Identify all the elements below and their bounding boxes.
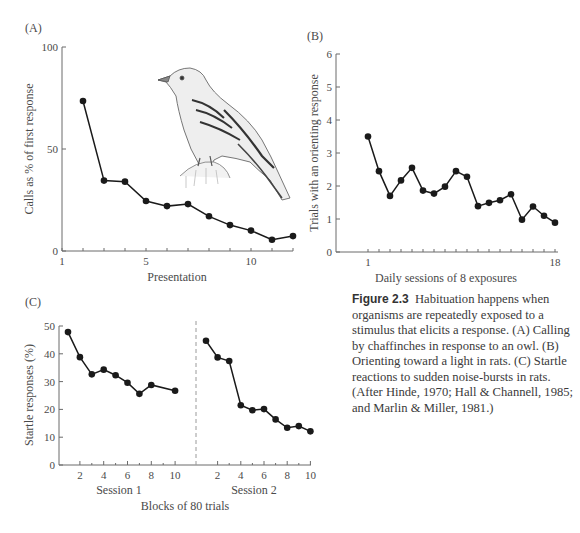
x-tick-label: 6 [261, 469, 267, 481]
chaffinch-illustration-icon [158, 68, 290, 200]
data-point [398, 177, 405, 184]
y-tick-label: 20 [44, 403, 56, 415]
panel-b-line [368, 137, 555, 223]
panel-a-label: (A) [25, 21, 42, 35]
data-point [203, 337, 210, 344]
data-point [226, 358, 233, 365]
data-point [148, 382, 155, 389]
panel-c-y-axis-label: Startle responses (%) [22, 344, 36, 446]
data-point [376, 168, 383, 175]
panel-c-session-1-line [68, 332, 175, 394]
data-point [143, 198, 150, 205]
x-tick-label: 5 [143, 255, 149, 267]
x-tick-label: 1 [59, 255, 65, 267]
data-point [136, 391, 143, 398]
data-point [475, 203, 482, 210]
x-tick-label: 8 [149, 469, 155, 481]
data-point [261, 406, 268, 413]
x-tick-label: 2 [215, 469, 221, 481]
panel-a-y-axis-label: Calls as % of first response [22, 84, 36, 215]
figure-caption: Figure 2.3 Habituation happens when orga… [352, 292, 574, 416]
data-point [80, 98, 87, 105]
data-point [486, 200, 493, 207]
data-point [101, 177, 108, 184]
x-tick-label: 8 [284, 469, 290, 481]
data-point [307, 428, 314, 435]
x-tick-label: 4 [101, 469, 107, 481]
panel-b-y-axis-label: Trials with an orienting response [307, 74, 321, 232]
panel-a-x-axis-label: Presentation [147, 270, 206, 284]
y-tick-label: 100 [42, 41, 59, 53]
data-point [387, 193, 394, 200]
data-point [238, 402, 245, 409]
y-tick-label: 50 [47, 143, 59, 155]
panel-b-chart: (B) 0123456118 Trials with an orienting … [307, 29, 561, 285]
data-point [442, 183, 449, 190]
panel-c-session-1-label: Session 1 [96, 483, 142, 497]
data-point [431, 190, 438, 197]
data-point [164, 203, 171, 210]
panel-c-x-axis-label: Blocks of 80 trials [141, 499, 230, 513]
x-tick-label: 10 [170, 469, 182, 481]
figure-number: Figure 2.3 [352, 292, 409, 306]
y-tick-label: 50 [44, 320, 56, 332]
y-tick-label: 3 [327, 147, 333, 159]
y-tick-label: 1 [327, 213, 333, 225]
data-point [112, 372, 119, 379]
y-tick-label: 2 [327, 180, 333, 192]
x-tick-label: 2 [77, 469, 83, 481]
data-point [365, 133, 372, 140]
data-point [530, 203, 537, 210]
data-point [508, 191, 515, 198]
data-point [552, 219, 559, 226]
panel-b-x-axis-label: Daily sessions of 8 exposures [375, 271, 517, 285]
data-point [269, 236, 276, 243]
figure-caption-text: Habituation happens when organisms are r… [352, 292, 573, 415]
y-tick-label: 40 [44, 348, 56, 360]
x-tick-label: 10 [246, 255, 258, 267]
panel-c-session-2-line [206, 341, 310, 432]
panel-b-series [365, 133, 559, 226]
data-point [122, 178, 129, 185]
data-point [248, 227, 255, 234]
data-point [541, 212, 548, 219]
y-tick-label: 0 [50, 459, 56, 471]
data-point [497, 197, 504, 204]
data-point [77, 354, 84, 361]
panel-b-label: (B) [307, 29, 323, 43]
y-tick-label: 0 [327, 246, 333, 258]
panel-a-chart: (A) 0501001510 Calls as % of first respo… [22, 21, 296, 284]
data-point [100, 366, 107, 373]
panel-b-axes: 0123456118 [327, 48, 562, 268]
data-point [227, 222, 234, 229]
data-point [89, 371, 96, 378]
y-tick-label: 0 [53, 245, 59, 257]
y-tick-label: 4 [327, 114, 333, 126]
data-point [453, 168, 460, 175]
panel-c-series [65, 329, 314, 435]
panel-c-axes: 01020304050224466881010 [44, 320, 316, 481]
data-point [124, 379, 131, 386]
x-tick-label: 10 [305, 469, 317, 481]
data-point [409, 165, 416, 172]
y-tick-label: 30 [44, 376, 56, 388]
data-point [296, 423, 303, 430]
data-point [464, 173, 471, 180]
x-tick-label: 4 [238, 469, 244, 481]
data-point [420, 187, 427, 194]
data-point [249, 407, 256, 414]
data-point [185, 201, 192, 208]
y-tick-label: 10 [44, 431, 56, 443]
data-point [284, 424, 291, 431]
panel-c-chart: (C) 01020304050224466881010 Startle resp… [22, 295, 316, 513]
x-tick-label: 18 [550, 256, 562, 268]
data-point [65, 329, 72, 336]
y-tick-label: 6 [327, 48, 333, 60]
data-point [272, 416, 279, 423]
panel-c-session-2-label: Session 2 [231, 483, 277, 497]
y-tick-label: 5 [327, 81, 333, 93]
x-tick-label: 1 [365, 256, 371, 268]
data-point [290, 233, 297, 240]
figure-canvas: (A) 0501001510 Calls as % of first respo… [0, 0, 580, 533]
panel-c-label: (C) [25, 295, 41, 309]
